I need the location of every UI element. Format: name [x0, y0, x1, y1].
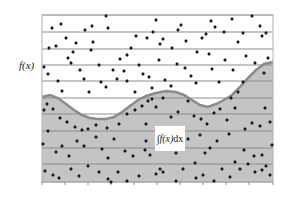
scatter-point	[150, 86, 154, 90]
scatter-point	[82, 77, 86, 81]
scatter-point	[137, 63, 141, 67]
scatter-point	[260, 34, 264, 38]
scatter-point	[236, 40, 240, 44]
scatter-point	[46, 72, 50, 76]
integrand: f(x)	[159, 133, 173, 144]
scatter-point	[157, 58, 161, 62]
scatter-point	[244, 54, 248, 58]
scatter-point	[118, 57, 122, 61]
scatter-point	[223, 58, 227, 62]
scatter-point	[56, 79, 60, 83]
scatter-point	[91, 40, 95, 44]
scatter-point	[195, 50, 199, 54]
scatter-point	[200, 36, 204, 40]
scatter-point	[209, 19, 213, 23]
integral-area-diagram: f(x) ∫ f(x) dx	[0, 0, 293, 199]
scatter-point	[66, 56, 70, 60]
scatter-point	[194, 81, 198, 85]
scatter-point	[83, 28, 87, 32]
scatter-point	[125, 79, 129, 83]
scatter-point	[266, 56, 270, 60]
scatter-point	[231, 68, 235, 72]
scatter-point	[147, 75, 151, 79]
scatter-point	[154, 18, 158, 22]
scatter-point	[141, 72, 145, 76]
scatter-point	[90, 24, 94, 28]
y-axis-label: f(x)	[19, 59, 34, 71]
scatter-point	[106, 26, 110, 30]
scatter-point	[210, 67, 214, 71]
scatter-point	[189, 74, 193, 78]
scatter-point	[230, 17, 234, 21]
scatter-point	[115, 77, 119, 81]
scatter-point	[158, 42, 162, 46]
scatter-point	[151, 30, 155, 34]
scatter-point	[204, 32, 208, 36]
scatter-point	[50, 26, 54, 30]
scatter-point	[60, 89, 64, 93]
scatter-point	[133, 90, 137, 94]
scatter-point	[69, 61, 73, 65]
scatter-point	[42, 65, 46, 69]
scatter-point	[253, 61, 257, 65]
scatter-point	[54, 44, 58, 48]
differential: dx	[173, 133, 183, 144]
scatter-point	[71, 50, 75, 54]
scatter-point	[145, 36, 149, 40]
scatter-point	[179, 23, 183, 27]
scatter-point	[97, 63, 101, 67]
scatter-point	[78, 68, 82, 72]
scatter-point	[111, 68, 115, 72]
scatter-point	[104, 85, 108, 89]
scatter-point	[122, 69, 126, 73]
scatter-point	[87, 90, 91, 94]
scatter-point	[222, 30, 226, 34]
scatter-point	[184, 39, 188, 43]
scatter-point	[134, 34, 138, 38]
scatter-point	[169, 84, 173, 88]
scatter-point	[207, 52, 211, 56]
scatter-point	[64, 36, 68, 40]
scatter-point	[125, 53, 129, 57]
scatter-point	[258, 24, 262, 28]
scatter-point	[176, 28, 180, 32]
scatter-point	[183, 66, 187, 70]
scatter-point	[213, 25, 217, 29]
scatter-point	[74, 41, 78, 45]
plot-canvas	[0, 0, 293, 199]
integral-label-box: ∫ f(x) dx	[155, 126, 185, 151]
scatter-point	[59, 22, 63, 26]
scatter-point	[161, 37, 165, 41]
